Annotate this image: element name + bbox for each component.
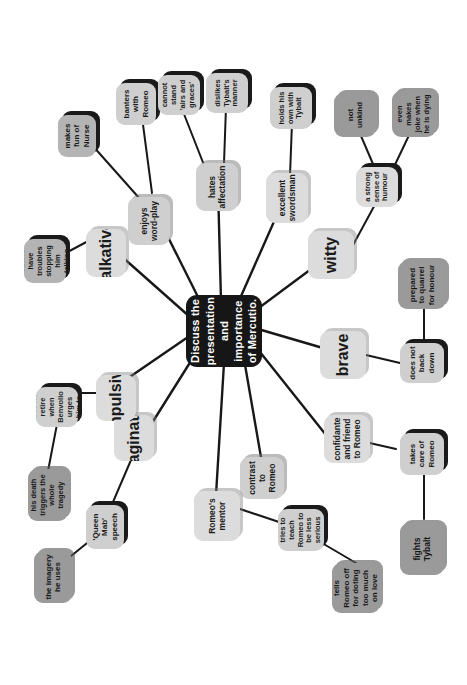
node-enjoys-word-play[interactable]: enjoys word-play	[128, 197, 170, 245]
node-fights-tybalt[interactable]: fights Tybalt	[400, 523, 444, 575]
node-label: even makes joke when he is dying	[396, 94, 431, 134]
edge-swordsman-holds-own	[290, 123, 292, 175]
node-tells-romeo-off[interactable]: tells Romeo off for doting too much on l…	[332, 563, 380, 613]
node-his-death-triggers-tragedy[interactable]: his death triggers the whole tragedy	[28, 469, 68, 521]
node-contrast-to-romeo[interactable]: contrast to Romeo	[240, 457, 284, 499]
node-label: takes care of Romeo	[408, 436, 436, 472]
node-label: banters with Romeo	[122, 86, 150, 122]
node-label: prepared to quarrel for honour	[408, 264, 436, 306]
edge-brave-does-not-back-down	[366, 355, 400, 363]
node-label: Romeo's mentor	[207, 494, 227, 538]
node-label: excellent swordsman	[277, 174, 297, 221]
edge-hates-cannot-stand	[182, 109, 204, 165]
node-cannot-stand-airs-and-graces[interactable]: cannot stand 'airs and graces'	[158, 75, 200, 115]
node-label: a strong sense of humour	[364, 170, 391, 204]
node-holds-his-own-with-tybalt[interactable]: holds his own with Tybalt	[270, 87, 312, 129]
node-label: contrast to Romeo	[247, 460, 277, 496]
node-queen-mab-speech[interactable]: 'Queen Mab' speech	[86, 505, 124, 549]
node-label: dislikes Tybalt's manner	[214, 76, 241, 110]
mind-map-rotor: Discuss the presentation and importance …	[0, 0, 467, 685]
node-not-unkind[interactable]: not unkind	[334, 93, 376, 137]
node-excellent-swordsman[interactable]: excellent swordsman	[266, 173, 308, 223]
edge-mentor-tries-to-teach	[240, 509, 282, 523]
node-does-not-retire[interactable]: does not retire when Benvolio urges him …	[36, 387, 78, 427]
node-label: holds his own with Tybalt	[278, 90, 305, 126]
node-label: fights Tybalt	[412, 526, 432, 572]
node-brave[interactable]: brave	[320, 331, 366, 379]
node-label: imaginative	[125, 415, 144, 461]
edge-center-contrast-romeo	[244, 359, 262, 463]
node-witty[interactable]: witty	[308, 231, 354, 279]
node-label: hates affectation	[207, 166, 227, 209]
node-romeos-mentor[interactable]: Romeo's mentor	[194, 491, 240, 541]
node-label: his death triggers the whole tragedy	[30, 472, 65, 518]
mind-map-canvas: Discuss the presentation and importance …	[0, 0, 467, 685]
edge-hates-dislikes-tybalt	[224, 107, 226, 163]
edge-tries-teach-tells-romeo-off	[322, 543, 356, 563]
node-tries-to-teach-romeo[interactable]: tries to teach Romeo to be less serious	[278, 509, 324, 551]
node-label: impulsive	[107, 375, 126, 421]
edge-imaginative-queen-mab	[110, 453, 134, 509]
node-does-not-back-down[interactable]: does not back down	[400, 343, 444, 383]
node-label: witty	[322, 237, 341, 273]
node-takes-care-of-romeo[interactable]: takes care of Romeo	[400, 433, 444, 475]
node-label: brave	[334, 334, 353, 377]
edge-word-play-makes-fun-nurse	[92, 145, 140, 199]
node-banters-with-romeo[interactable]: banters with Romeo	[116, 83, 156, 125]
node-imaginative[interactable]: imaginative	[114, 415, 154, 461]
edge-center-talkative	[120, 255, 190, 317]
node-label: the imagery he uses	[44, 554, 63, 600]
node-label: tells Romeo off for doting too much on l…	[332, 566, 379, 610]
center-node[interactable]: Discuss the presentation and importance …	[186, 295, 262, 367]
node-label: makes fun of Nurse	[63, 118, 91, 154]
node-confidante-and-friend[interactable]: confidante and friend to Romeo	[324, 415, 370, 463]
node-label: confidante and friend to Romeo	[332, 418, 362, 461]
node-prepared-to-quarrel-for-honour[interactable]: prepared to quarrel for honour	[398, 261, 446, 309]
node-talkative[interactable]: talkative	[86, 229, 126, 277]
node-label: does not retire when Benvolio urges him …	[36, 390, 78, 424]
edge-center-romeos-mentor	[216, 363, 224, 495]
edge-center-confidante	[256, 347, 326, 435]
edge-word-play-banters-romeo	[142, 117, 152, 193]
node-label: 'Queen Mab' speech	[91, 508, 119, 546]
node-hates-affectation[interactable]: hates affectation	[196, 163, 238, 211]
node-the-imagery-he-uses[interactable]: the imagery he uses	[34, 551, 72, 603]
node-label: does not back down	[408, 346, 436, 380]
node-strong-sense-of-humour[interactable]: a strong sense of humour	[356, 167, 398, 207]
node-label: talkative	[97, 229, 116, 277]
node-label: enjoys word-play	[139, 200, 159, 242]
node-even-makes-joke-when-dying[interactable]: even makes joke when he is dying	[392, 91, 436, 137]
node-label: tries to teach Romeo to be less serious	[279, 512, 323, 548]
node-label: not unkind	[346, 96, 365, 134]
node-impulsive[interactable]: impulsive	[96, 375, 136, 421]
node-label: others have troubles stopping him talkin…	[24, 242, 66, 280]
node-dislikes-tybalts-manner[interactable]: dislikes Tybalt's manner	[206, 73, 248, 113]
node-makes-fun-of-nurse[interactable]: makes fun of Nurse	[58, 115, 96, 157]
node-label: cannot stand 'airs and graces'	[161, 78, 196, 112]
node-others-have-troubles[interactable]: others have troubles stopping him talkin…	[24, 239, 66, 283]
